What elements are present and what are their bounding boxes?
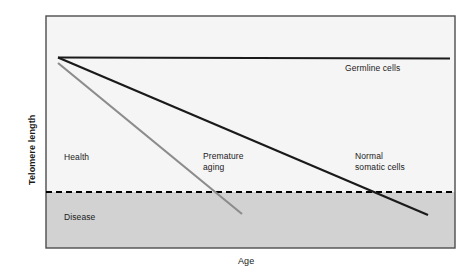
premature-aging-label: Premature aging xyxy=(203,151,244,173)
disease-zone-label: Disease xyxy=(64,212,95,223)
y-axis-title: Telomere length xyxy=(27,115,37,185)
germline-cells-label: Germline cells xyxy=(345,63,400,74)
chart-canvas xyxy=(0,0,474,279)
germline-cells-line xyxy=(58,58,450,59)
x-axis-title: Age xyxy=(238,256,254,266)
telomere-length-chart: Telomere length Age Germline cells Healt… xyxy=(0,0,474,279)
normal-somatic-cells-label: Normal somatic cells xyxy=(355,151,405,173)
health-zone-label: Health xyxy=(64,152,89,163)
